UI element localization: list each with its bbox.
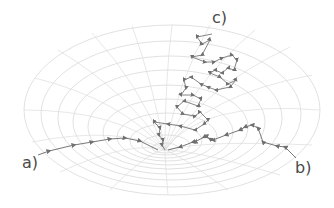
label-b: b) xyxy=(295,160,311,176)
grid-radials xyxy=(24,25,320,195)
label-a: a) xyxy=(22,155,38,171)
funnel-graphic xyxy=(0,0,334,208)
label-c: c) xyxy=(212,10,227,26)
funnel-diagram: a) b) c) xyxy=(0,0,334,208)
grid-rings xyxy=(24,25,320,195)
trajectory-b xyxy=(168,125,296,158)
